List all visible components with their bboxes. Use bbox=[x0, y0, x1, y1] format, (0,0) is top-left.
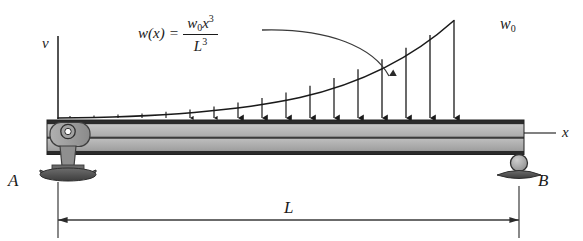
distributed-load-arrows bbox=[70, 21, 454, 118]
formula-equals: = bbox=[170, 26, 178, 41]
x-axis-label: x bbox=[562, 125, 569, 140]
formula-den-L: L bbox=[194, 37, 202, 53]
beam-load-diagram: w(x) = w0x3 L3 v x A B L w0 bbox=[0, 0, 583, 241]
span-length-label: L bbox=[284, 199, 293, 216]
load-peak-subscript: 0 bbox=[511, 23, 516, 34]
v-axis-label: v bbox=[42, 36, 49, 51]
support-a-label: A bbox=[8, 172, 18, 189]
cubic-load-curve bbox=[58, 21, 454, 119]
formula-num-x-exponent: 3 bbox=[209, 13, 214, 24]
load-function-formula: w(x) = w0x3 L3 bbox=[138, 14, 218, 53]
support-b-label: B bbox=[538, 172, 548, 189]
formula-fraction: w0x3 L3 bbox=[183, 14, 218, 53]
formula-denominator: L3 bbox=[190, 35, 211, 54]
formula-leader-arrow bbox=[262, 30, 389, 76]
formula-numerator: w0x3 bbox=[183, 14, 218, 35]
formula-num-x: x bbox=[202, 15, 209, 31]
formula-lhs: w(x) bbox=[138, 26, 165, 41]
load-peak-w: w bbox=[500, 15, 511, 32]
beam bbox=[47, 120, 524, 155]
roller-support bbox=[497, 155, 541, 179]
formula-num-w: w bbox=[187, 15, 197, 31]
load-peak-label: w0 bbox=[500, 16, 516, 34]
formula-den-exponent: 3 bbox=[202, 36, 207, 47]
